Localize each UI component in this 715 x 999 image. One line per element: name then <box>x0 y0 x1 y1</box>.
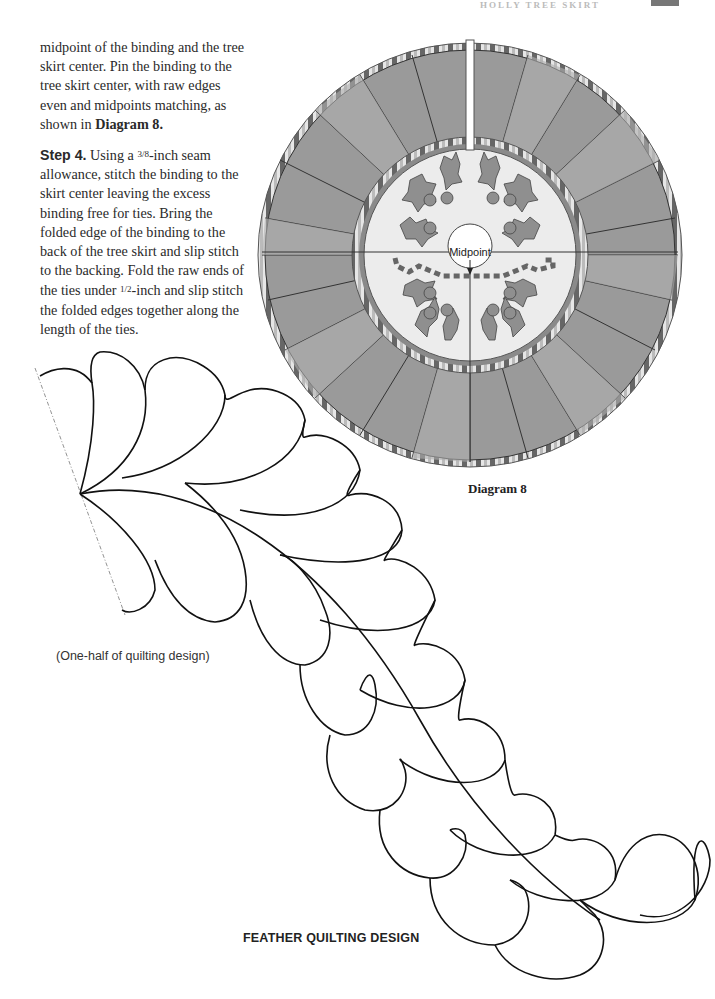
feather-outlines <box>40 352 710 979</box>
half-design-caption: (One-half of quilting design) <box>56 649 210 663</box>
feather-design-title: FEATHER QUILTING DESIGN <box>243 931 419 945</box>
feather-quilting-design <box>0 0 715 999</box>
